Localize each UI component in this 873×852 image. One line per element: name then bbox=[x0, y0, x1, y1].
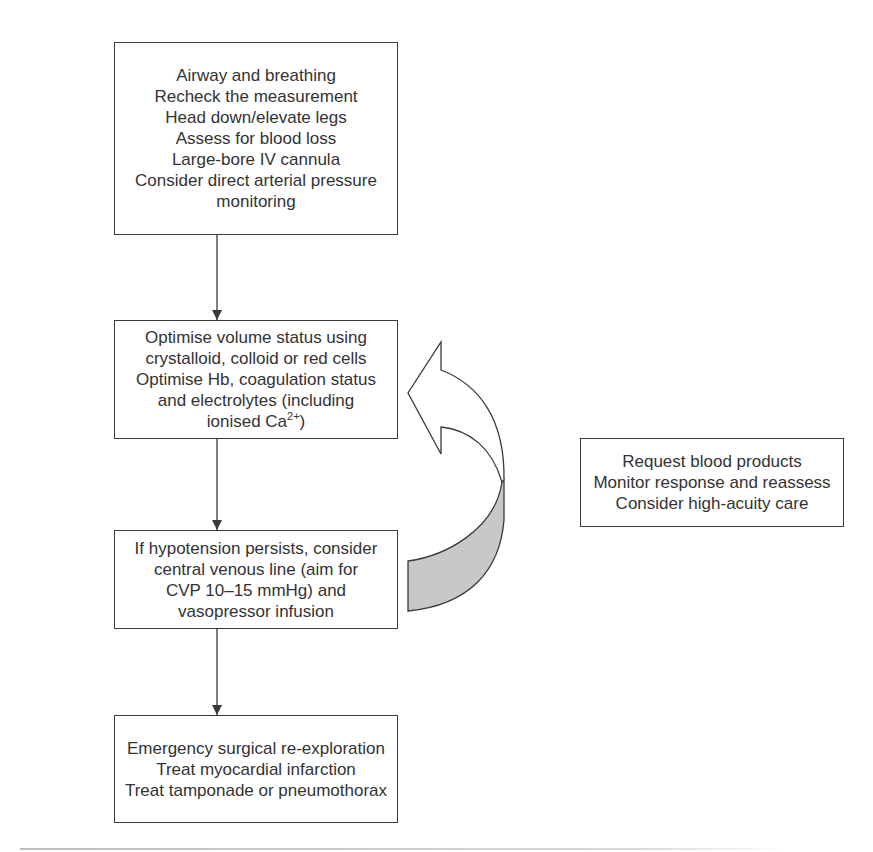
loop-back-arrow-icon bbox=[408, 342, 504, 611]
arrow-box1-to-box2 bbox=[212, 234, 222, 320]
closing-paren: ) bbox=[300, 412, 306, 431]
box-line: central venous line (aim for bbox=[154, 559, 358, 580]
calcium-label: ionised Ca bbox=[207, 412, 287, 431]
box-line: Emergency surgical re-exploration bbox=[127, 738, 385, 759]
box-line: crystalloid, colloid or red cells bbox=[145, 348, 366, 369]
box-line: Assess for blood loss bbox=[176, 128, 337, 149]
box-line: Large-bore IV cannula bbox=[172, 149, 340, 170]
calcium-charge: 2+ bbox=[287, 410, 300, 422]
box-line: Head down/elevate legs bbox=[165, 107, 346, 128]
box-line: Request blood products bbox=[622, 451, 802, 472]
box-line-ionised-calcium: ionised Ca2+) bbox=[207, 411, 306, 432]
box-hypotension-persists: If hypotension persists, consider centra… bbox=[114, 530, 398, 629]
arrow-box2-to-box3 bbox=[212, 438, 222, 530]
box-line: Treat myocardial infarction bbox=[156, 759, 356, 780]
box-line: vasopressor infusion bbox=[178, 601, 334, 622]
box-line: monitoring bbox=[216, 191, 295, 212]
box-line: and electrolytes (including bbox=[158, 390, 355, 411]
box-line: CVP 10–15 mmHg) and bbox=[166, 580, 346, 601]
box-surgical-actions: Emergency surgical re-exploration Treat … bbox=[114, 715, 398, 823]
box-line: Treat tamponade or pneumothorax bbox=[125, 780, 387, 801]
box-line: If hypotension persists, consider bbox=[135, 538, 378, 559]
box-line: Airway and breathing bbox=[176, 65, 336, 86]
bottom-divider bbox=[20, 848, 790, 850]
box-line: Recheck the measurement bbox=[154, 86, 357, 107]
arrow-box3-to-box4 bbox=[212, 628, 222, 715]
box-side-actions: Request blood products Monitor response … bbox=[580, 438, 844, 527]
box-line: Monitor response and reassess bbox=[593, 472, 830, 493]
box-line: Optimise volume status using bbox=[145, 327, 367, 348]
box-line: Consider high-acuity care bbox=[616, 493, 809, 514]
box-initial-measures: Airway and breathing Recheck the measure… bbox=[114, 42, 398, 235]
box-line: Consider direct arterial pressure bbox=[135, 170, 377, 191]
box-optimise-volume: Optimise volume status using crystalloid… bbox=[114, 320, 398, 439]
box-line: Optimise Hb, coagulation status bbox=[136, 369, 376, 390]
